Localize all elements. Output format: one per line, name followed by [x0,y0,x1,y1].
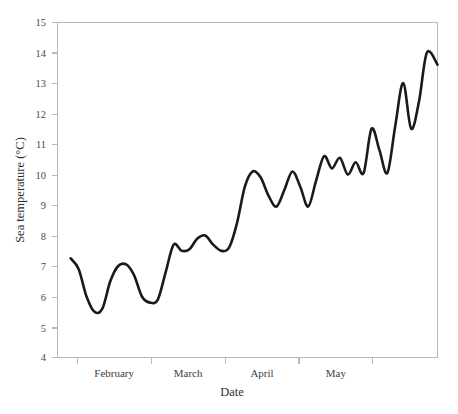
chart-figure: 15 14 13 12 11 10 9 8 7 6 5 4 February M… [0,0,458,414]
y-axis-title: Sea temperature (°C) [13,137,27,243]
y-tick-label-9: 9 [41,200,46,211]
y-tick-label-14: 14 [36,48,47,59]
x-label-march: March [174,367,203,379]
x-label-may: May [326,367,347,379]
y-tick-label-12: 12 [36,109,47,120]
y-tick-label-8: 8 [41,231,46,242]
sea-temperature-line-chart: 15 14 13 12 11 10 9 8 7 6 5 4 February M… [0,0,458,414]
x-label-february: February [94,367,134,379]
y-tick-label-10: 10 [36,170,47,181]
y-tick-label-7: 7 [41,261,46,272]
x-axis-title: Date [220,385,244,399]
y-tick-label-13: 13 [36,78,47,89]
y-tick-label-6: 6 [41,292,46,303]
y-tick-label-15: 15 [36,17,47,28]
chart-background [0,0,458,414]
y-tick-label-11: 11 [36,139,46,150]
y-tick-label-4: 4 [41,352,47,363]
y-tick-label-5: 5 [41,323,46,334]
x-label-april: April [250,367,273,379]
